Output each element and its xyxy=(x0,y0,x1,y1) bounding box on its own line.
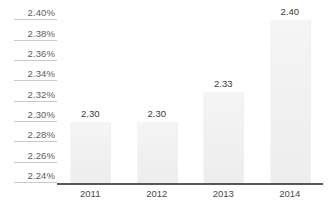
x-axis-tick-label: 2011 xyxy=(57,188,124,199)
bar-value-label: 2.30 xyxy=(57,108,124,119)
x-axis-tick-label: 2014 xyxy=(257,188,324,199)
gridline xyxy=(14,60,57,61)
y-axis-tick-label: 2.28% xyxy=(28,130,55,140)
bar-value-label: 2.33 xyxy=(190,78,257,89)
bar-group: 2.30 xyxy=(124,0,191,183)
y-axis-tick-label: 2.34% xyxy=(28,69,55,79)
y-axis-tick-label: 2.40% xyxy=(28,8,55,18)
plot-area: 2.302.302.332.40 xyxy=(57,0,323,183)
bar[interactable] xyxy=(137,122,178,183)
gridline xyxy=(14,40,57,41)
y-axis-tick-label: 2.30% xyxy=(28,110,55,120)
bar-group: 2.33 xyxy=(190,0,257,183)
gridline xyxy=(14,19,57,20)
y-axis: 2.24%2.26%2.28%2.30%2.32%2.34%2.36%2.38%… xyxy=(0,0,57,205)
bar-group: 2.30 xyxy=(57,0,124,183)
x-axis: 2011201220132014 xyxy=(57,185,323,205)
bar-value-label: 2.30 xyxy=(124,108,191,119)
y-axis-tick-label: 2.38% xyxy=(28,29,55,39)
gridline xyxy=(14,80,57,81)
gridline xyxy=(14,101,57,102)
x-axis-tick-label: 2013 xyxy=(190,188,257,199)
y-axis-tick-label: 2.26% xyxy=(28,151,55,161)
y-axis-tick-label: 2.32% xyxy=(28,90,55,100)
bar[interactable] xyxy=(270,20,311,183)
y-axis-tick-label: 2.24% xyxy=(28,171,55,181)
gridline xyxy=(14,162,57,163)
bar[interactable] xyxy=(203,92,244,184)
x-axis-tick-label: 2012 xyxy=(124,188,191,199)
gridline xyxy=(14,141,57,142)
bar[interactable] xyxy=(70,122,111,183)
bar-value-label: 2.40 xyxy=(257,6,324,17)
y-axis-tick-label: 2.36% xyxy=(28,49,55,59)
bar-chart: 2.24%2.26%2.28%2.30%2.32%2.34%2.36%2.38%… xyxy=(0,0,336,205)
gridline xyxy=(14,182,57,183)
gridline xyxy=(14,121,57,122)
bar-group: 2.40 xyxy=(257,0,324,183)
